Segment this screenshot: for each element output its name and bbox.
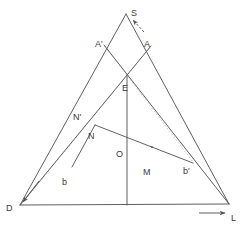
label-M: M <box>143 167 151 177</box>
label-b-prime: b' <box>183 166 190 176</box>
label-D: D <box>6 203 13 213</box>
label-N: N <box>88 131 95 141</box>
label-S: S <box>131 8 137 18</box>
point-marker-M <box>151 146 153 148</box>
segment-N-b-prime <box>95 125 193 163</box>
edge-S-D <box>20 14 126 205</box>
baseline-D-L <box>20 204 229 205</box>
cevian-A-prime-L <box>104 45 229 204</box>
diagram-canvas: S A' A E N' N O M b b' D L <box>0 0 246 229</box>
label-b: b <box>62 177 67 187</box>
label-L: L <box>231 213 236 223</box>
arrow-to-D <box>23 181 39 202</box>
geometric-figure: S A' A E N' N O M b b' D L <box>0 0 246 229</box>
label-E: E <box>122 83 128 93</box>
label-A-prime: A' <box>95 39 103 49</box>
edge-S-L <box>126 14 229 204</box>
label-N-prime: N' <box>73 112 81 122</box>
cevian-A-D <box>20 46 151 205</box>
label-A: A <box>144 39 150 49</box>
label-O: O <box>116 149 123 159</box>
